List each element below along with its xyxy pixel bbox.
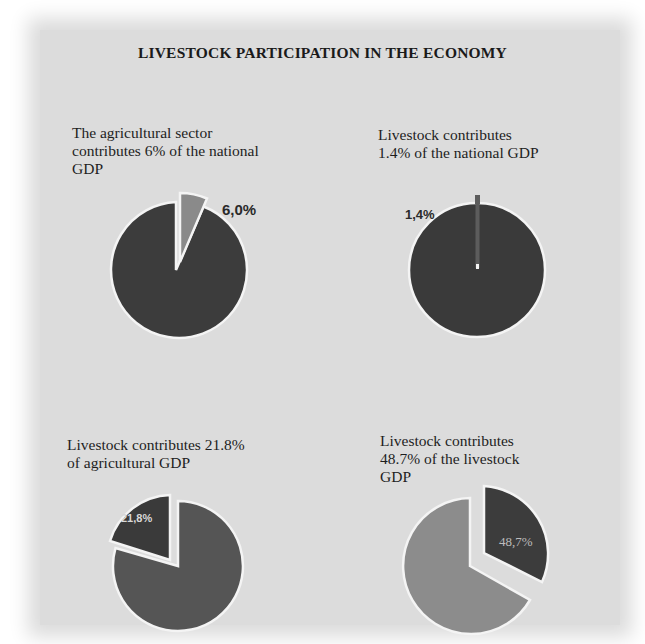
pie-charts: 6,0% 1,4% 21,8% 48,7% bbox=[0, 0, 645, 644]
pie-livestock-share: 48,7% bbox=[403, 486, 548, 634]
pie-slice-livestock-exploded bbox=[475, 195, 480, 204]
pie-data-label: 1,4% bbox=[405, 207, 435, 222]
pie-slice-livestock bbox=[476, 202, 480, 268]
pie-data-label: 48,7% bbox=[499, 534, 533, 549]
pie-data-label: 21,8% bbox=[121, 512, 152, 524]
pie-center-gap bbox=[476, 264, 479, 269]
pie-livestock-national: 1,4% bbox=[405, 195, 545, 337]
pie-livestock-agricultural: 21,8% bbox=[110, 495, 243, 631]
pie-data-label: 6,0% bbox=[222, 201, 256, 218]
pie-agricultural-national: 6,0% bbox=[111, 193, 256, 338]
